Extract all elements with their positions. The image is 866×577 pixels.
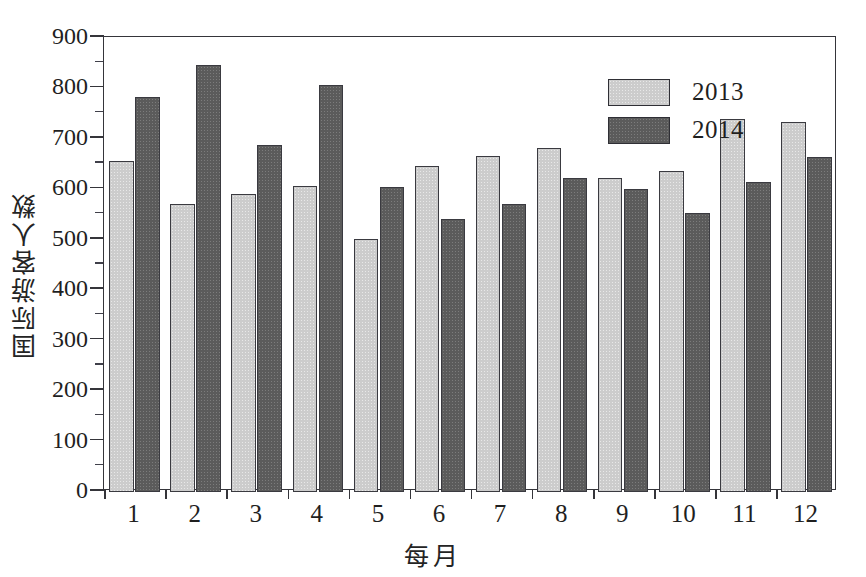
legend-swatch-2013 [608,79,670,106]
y-tick-label: 100 [52,428,88,452]
bar [781,122,806,492]
bar [135,97,160,492]
y-tick-label: 200 [52,377,88,401]
y-tick-label: 400 [52,276,88,300]
x-tick-label: 7 [470,500,530,528]
legend: 2013 2014 [608,75,798,151]
x-tick-label: 2 [165,500,225,528]
legend-item: 2014 [608,113,798,147]
bar [807,157,832,492]
x-tick-label: 1 [104,500,164,528]
bar [441,219,466,492]
bar [415,166,440,492]
bar [537,148,562,492]
x-tick-mark [349,490,351,499]
legend-item: 2013 [608,75,798,109]
x-tick-label: 10 [653,500,713,528]
bar [354,239,379,492]
x-tick-label: 11 [714,500,774,528]
bar [319,85,344,492]
legend-label-2014: 2014 [692,116,744,144]
y-tick-label: 700 [52,125,88,149]
x-tick-label: 12 [775,500,835,528]
x-tick-mark [104,490,106,499]
x-tick-mark [471,490,473,499]
bar [170,204,195,492]
x-tick-mark [654,490,656,499]
y-tick-label: 500 [52,226,88,250]
legend-swatch-2014 [608,117,670,144]
x-tick-label: 4 [287,500,347,528]
bar [231,194,256,492]
bar [196,65,221,492]
bar [563,178,588,492]
x-tick-label: 6 [409,500,469,528]
bar [685,213,710,492]
y-tick-label: 900 [52,24,88,48]
x-tick-mark [532,490,534,499]
x-tick-label: 5 [348,500,408,528]
y-tick-label: 600 [52,175,88,199]
legend-label-2013: 2013 [692,78,744,106]
bar [598,178,623,492]
bar [746,182,771,492]
x-tick-mark [410,490,412,499]
y-axis-tick-labels: 0100200300400500600700800900 [0,0,96,577]
y-tick-label: 800 [52,74,88,98]
bar [659,171,684,492]
y-tick-label: 0 [76,478,88,502]
bar [720,119,745,492]
bar [109,161,134,492]
plot-area: 2013 2014 [103,36,836,490]
x-tick-label: 8 [531,500,591,528]
y-tick-label: 300 [52,327,88,351]
bar [293,186,318,492]
x-tick-mark [776,490,778,499]
x-axis-title: 每月 [0,536,866,572]
x-tick-mark [226,490,228,499]
x-tick-mark [165,490,167,499]
bar [624,189,649,492]
bar [380,187,405,492]
bar [257,145,282,492]
x-tick-mark [715,490,717,499]
x-tick-label: 9 [592,500,652,528]
x-tick-mark [593,490,595,499]
bar [502,204,527,492]
x-tick-mark [288,490,290,499]
x-tick-label: 3 [226,500,286,528]
bar-chart-figure: 国际游客人数 0100200300400500600700800900 2013… [0,0,866,577]
bar [476,156,501,492]
